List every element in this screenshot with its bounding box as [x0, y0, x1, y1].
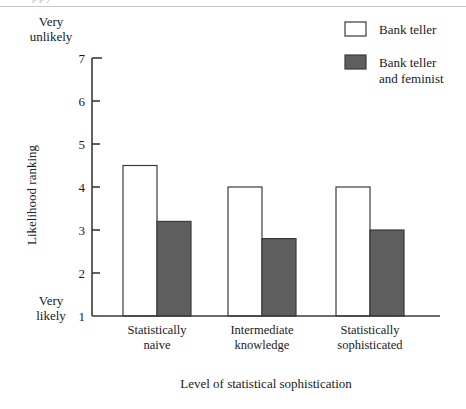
- y-tick-label: 3: [79, 223, 86, 238]
- bar-1-2: [370, 230, 404, 316]
- x-category-label-0: naive: [143, 338, 171, 352]
- y-anchor-high-label: unlikely: [30, 29, 73, 44]
- x-axis-title: Level of statistical sophistication: [180, 376, 352, 391]
- y-tick-label: 4: [79, 180, 86, 195]
- bar-1-0: [157, 221, 191, 316]
- y-anchor-low-label: likely: [36, 308, 66, 323]
- x-category-label-0: Statistically: [127, 323, 187, 337]
- chart-legend: Bank tellerBank tellerand feminist: [345, 22, 444, 86]
- legend-swatch-0: [345, 22, 366, 36]
- x-category-label-2: Statistically: [340, 323, 400, 337]
- x-category-label-1: knowledge: [235, 338, 290, 352]
- bar-0-1: [228, 187, 262, 316]
- y-axis-title: Likelihood ranking: [24, 145, 39, 246]
- bars-layer: [123, 166, 404, 317]
- x-category-label-2: sophisticated: [337, 338, 403, 352]
- legend-swatch-1: [345, 55, 366, 69]
- bar-chart: Bank tellerBank tellerand feminist 12345…: [0, 0, 466, 409]
- y-tick-label: 2: [79, 266, 86, 281]
- legend-label-1: Bank teller: [379, 55, 437, 70]
- figure-container: p p y Bank tellerBank tellerand feminist…: [0, 0, 466, 409]
- bar-1-1: [262, 239, 296, 316]
- y-tick-label: 1: [79, 309, 86, 324]
- y-tick-label: 6: [79, 94, 86, 109]
- legend-label-1: and feminist: [379, 71, 444, 86]
- x-axis: StatisticallynaiveIntermediateknowledgeS…: [92, 316, 440, 352]
- bar-0-2: [336, 187, 370, 316]
- y-anchor-high-label: Very: [39, 14, 64, 29]
- y-tick-label: 5: [79, 137, 86, 152]
- bar-0-0: [123, 166, 157, 317]
- y-axis: 1234567VeryunlikelyVerylikely: [30, 14, 102, 324]
- legend-label-0: Bank teller: [379, 22, 437, 37]
- y-anchor-low-label: Very: [39, 293, 64, 308]
- x-category-label-1: Intermediate: [230, 323, 294, 337]
- y-tick-label: 7: [79, 51, 86, 66]
